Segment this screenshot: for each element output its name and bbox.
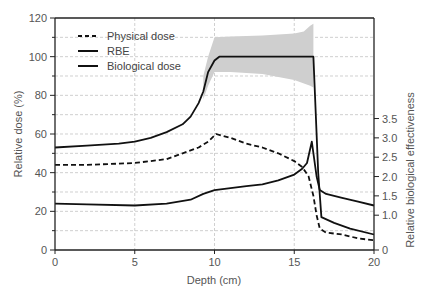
x-tick-label: 10 <box>208 256 220 268</box>
y-tick-label: 120 <box>29 12 47 24</box>
legend-label-physical-dose: Physical dose <box>107 30 175 42</box>
x-tick-label: 5 <box>132 256 138 268</box>
y-tick-label: 20 <box>35 205 47 217</box>
y2-tick-label: 1.5 <box>382 190 397 202</box>
uncertainty-band <box>203 24 313 99</box>
y2-tick-label: 3.5 <box>382 113 397 125</box>
y2-tick-label: 3.0 <box>382 132 397 144</box>
legend-label-biological-dose: Biological dose <box>107 60 181 72</box>
legend: Physical dose RBE Biological dose <box>78 30 181 72</box>
y2-tick-label: 0 <box>382 244 388 256</box>
x-tick-label: 0 <box>52 256 58 268</box>
y-tick-label: 0 <box>41 244 47 256</box>
legend-label-rbe: RBE <box>107 45 130 57</box>
biological-dose-uncertainty-band <box>203 24 313 99</box>
y2-tick-label: 2.0 <box>382 171 397 183</box>
y-tick-label: 100 <box>29 51 47 63</box>
y-axis-title: Relative dose (%) <box>12 91 24 178</box>
y2-tick-label: 1.0 <box>382 209 397 221</box>
y2-axis-title: Relative biological effectiveness <box>404 92 416 248</box>
x-tick-label: 20 <box>368 256 380 268</box>
y-tick-label: 80 <box>35 89 47 101</box>
x-tick-label: 15 <box>288 256 300 268</box>
dose-depth-chart: 0204060801001200510152001.01.52.02.53.03… <box>0 0 430 297</box>
y-tick-label: 40 <box>35 167 47 179</box>
y-tick-label: 60 <box>35 128 47 140</box>
x-axis-title: Depth (cm) <box>187 274 241 286</box>
y2-tick-label: 2.5 <box>382 151 397 163</box>
